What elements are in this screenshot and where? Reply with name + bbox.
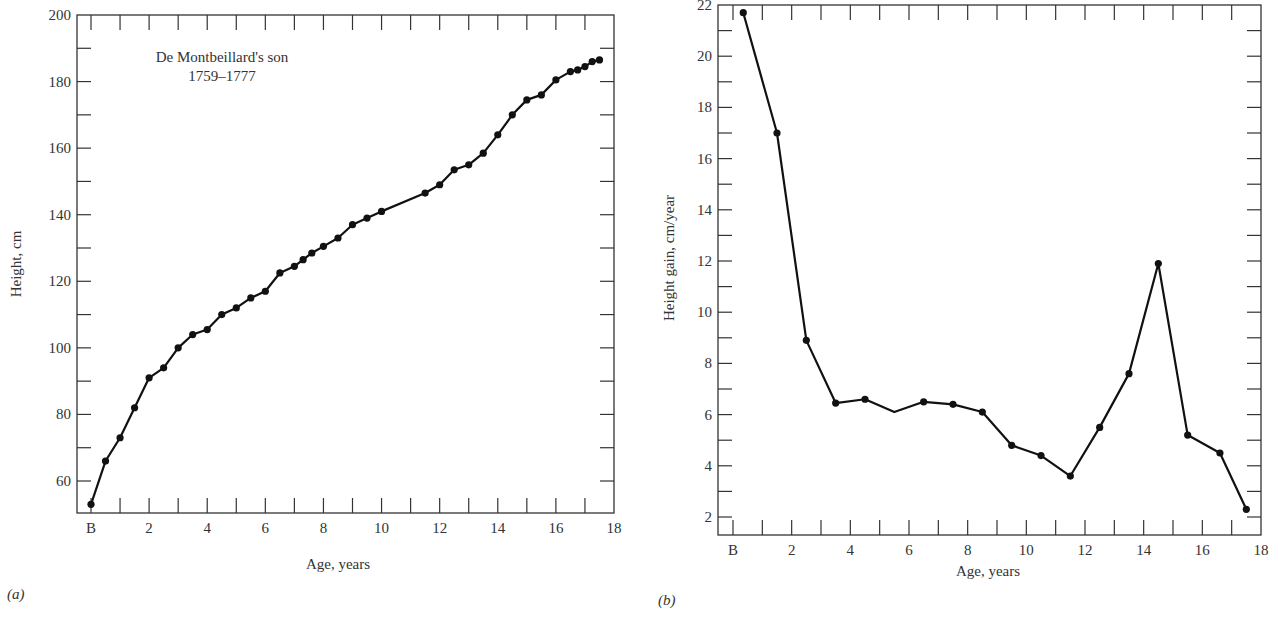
data-point: [175, 344, 182, 351]
data-point: [247, 294, 254, 301]
data-point: [567, 68, 574, 75]
svg-text:16: 16: [1195, 542, 1211, 558]
chart-a-tick-labels: 6080100120140160180200B24681012141618: [49, 7, 622, 536]
svg-text:4: 4: [203, 520, 211, 536]
svg-text:10: 10: [374, 520, 389, 536]
svg-text:8: 8: [320, 520, 328, 536]
data-point: [494, 131, 501, 138]
svg-text:18: 18: [697, 99, 712, 115]
data-point: [861, 396, 868, 403]
data-point: [131, 404, 138, 411]
growth-charts: 6080100120140160180200B24681012141618 De…: [0, 0, 1272, 618]
data-point: [1125, 370, 1132, 377]
chart-b-tick-labels: 246810121416182022B24681012141618: [697, 0, 1269, 558]
svg-text:18: 18: [607, 520, 622, 536]
data-point: [320, 243, 327, 250]
svg-text:140: 140: [49, 207, 72, 223]
data-point: [291, 263, 298, 270]
data-point: [509, 111, 516, 118]
data-point: [920, 398, 927, 405]
data-point: [436, 181, 443, 188]
svg-text:6: 6: [705, 407, 713, 423]
chart-a-x-axis-title: Age, years: [306, 556, 370, 572]
chart-a-ticks: [77, 15, 614, 513]
svg-text:12: 12: [432, 520, 447, 536]
chart-a-annotation-line-1: De Montbeillard's son: [156, 49, 289, 65]
svg-text:6: 6: [262, 520, 270, 536]
chart-a-frame: [77, 15, 614, 513]
svg-text:22: 22: [697, 0, 712, 13]
data-point: [538, 91, 545, 98]
chart-b-line: [743, 13, 1246, 510]
svg-text:14: 14: [1136, 542, 1152, 558]
svg-text:180: 180: [49, 74, 72, 90]
data-point: [574, 66, 581, 73]
data-point: [363, 214, 370, 221]
data-point: [589, 58, 596, 65]
data-point: [596, 56, 603, 63]
data-point: [832, 399, 839, 406]
data-point: [581, 63, 588, 70]
svg-text:4: 4: [705, 458, 713, 474]
svg-text:8: 8: [705, 355, 713, 371]
svg-text:16: 16: [548, 520, 564, 536]
data-point: [102, 457, 109, 464]
svg-text:160: 160: [49, 140, 72, 156]
svg-text:16: 16: [697, 151, 713, 167]
chart-b-panel-label: (b): [658, 592, 676, 609]
svg-text:8: 8: [964, 542, 972, 558]
svg-text:120: 120: [49, 273, 72, 289]
data-point: [262, 288, 269, 295]
svg-text:2: 2: [788, 542, 796, 558]
data-point: [773, 129, 780, 136]
chart-b-y-axis-title: Height gain, cm/year: [661, 195, 677, 321]
svg-text:200: 200: [49, 7, 72, 23]
svg-text:10: 10: [697, 304, 712, 320]
data-point: [146, 374, 153, 381]
data-point: [523, 96, 530, 103]
data-point: [300, 256, 307, 263]
chart-a-height: 6080100120140160180200B24681012141618 De…: [7, 7, 622, 603]
svg-text:10: 10: [1019, 542, 1034, 558]
svg-text:100: 100: [49, 340, 72, 356]
chart-b-frame: [718, 5, 1261, 535]
data-point: [979, 408, 986, 415]
chart-a-annotation-line-2: 1759–1777: [188, 68, 256, 84]
chart-b-ticks: [718, 5, 1261, 535]
data-point: [949, 401, 956, 408]
svg-text:14: 14: [490, 520, 506, 536]
data-point: [1037, 452, 1044, 459]
svg-text:B: B: [728, 542, 738, 558]
data-point: [480, 150, 487, 157]
data-point: [451, 166, 458, 173]
chart-b-height-gain: 246810121416182022B24681012141618 Age, y…: [658, 0, 1269, 609]
svg-text:20: 20: [697, 48, 712, 64]
data-point: [334, 234, 341, 241]
data-point: [1243, 506, 1250, 513]
data-point: [233, 304, 240, 311]
data-point: [218, 311, 225, 318]
data-point: [308, 249, 315, 256]
data-point: [276, 269, 283, 276]
chart-a-markers: [87, 56, 603, 508]
data-point: [803, 337, 810, 344]
chart-a-panel-label: (a): [7, 586, 25, 603]
svg-text:12: 12: [1078, 542, 1093, 558]
data-point: [349, 221, 356, 228]
chart-b-x-axis-title: Age, years: [956, 563, 1020, 579]
data-point: [160, 364, 167, 371]
svg-text:18: 18: [1254, 542, 1269, 558]
svg-text:2: 2: [145, 520, 153, 536]
data-point: [378, 208, 385, 215]
data-point: [465, 161, 472, 168]
data-point: [740, 9, 747, 16]
data-point: [204, 326, 211, 333]
data-point: [1216, 449, 1223, 456]
svg-text:12: 12: [697, 253, 712, 269]
svg-text:60: 60: [56, 473, 71, 489]
data-point: [1155, 260, 1162, 267]
chart-a-line: [91, 60, 599, 504]
svg-text:14: 14: [697, 202, 713, 218]
svg-text:4: 4: [847, 542, 855, 558]
data-point: [552, 76, 559, 83]
